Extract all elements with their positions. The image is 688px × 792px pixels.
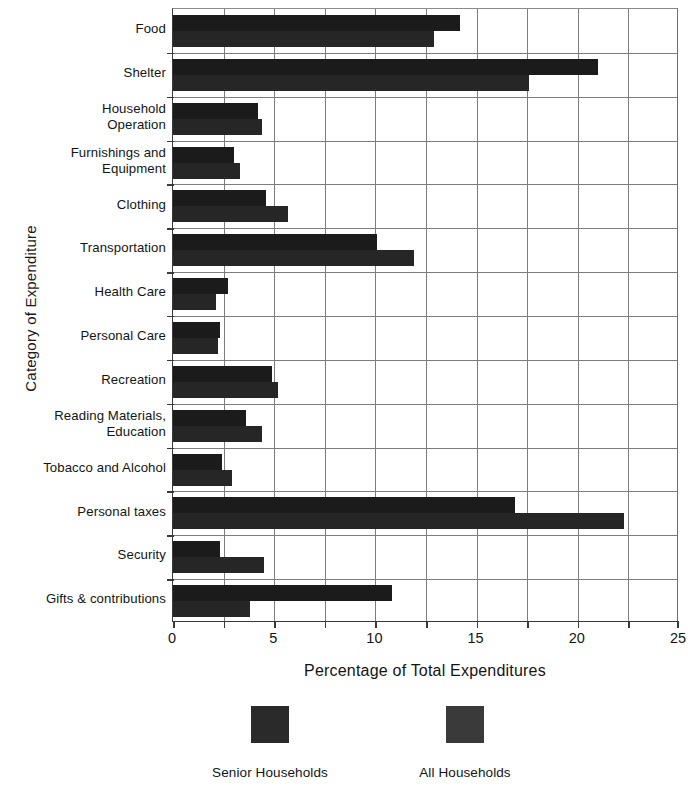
category-label-line: Personal taxes [18, 504, 166, 520]
category-label: Food [18, 21, 166, 37]
bar [173, 454, 222, 470]
category-label-line: Household [18, 101, 166, 117]
bar [173, 147, 234, 163]
x-axis-tick [375, 621, 377, 628]
bar [173, 234, 377, 250]
horizontal-gridline [173, 184, 677, 185]
x-axis-tick [677, 621, 679, 628]
y-axis-tick [167, 316, 174, 317]
y-axis-tick [167, 97, 174, 98]
horizontal-gridline [173, 316, 677, 317]
bar [173, 119, 262, 135]
category-label-line: Recreation [18, 372, 166, 388]
legend-item: Senior Households [175, 706, 365, 780]
category-label: Tobacco and Alcohol [18, 460, 166, 476]
horizontal-gridline [173, 579, 677, 580]
y-axis-tick [167, 535, 174, 536]
x-axis-tick-labels: 0510152025 [172, 630, 678, 652]
category-label-line: Furnishings and [18, 145, 166, 161]
bar [173, 190, 266, 206]
y-axis-tick [167, 272, 174, 273]
x-axis-tick [578, 621, 580, 628]
y-axis-tick [167, 360, 174, 361]
category-label-line: Security [18, 547, 166, 563]
category-label-line: Personal Care [18, 328, 166, 344]
bar [173, 59, 598, 75]
category-label: Transportation [18, 240, 166, 256]
legend-label: Senior Households [175, 765, 365, 780]
category-label-line: Tobacco and Alcohol [18, 460, 166, 476]
y-axis-tick [167, 53, 174, 54]
bar [173, 585, 392, 601]
x-axis-tick [628, 621, 630, 628]
x-axis-tick-label: 10 [352, 630, 396, 646]
horizontal-gridline [173, 360, 677, 361]
category-label-line: Education [18, 424, 166, 440]
bar [173, 410, 246, 426]
vertical-gridline [628, 9, 629, 621]
category-label: Clothing [18, 197, 166, 213]
x-axis-tick [274, 621, 276, 628]
horizontal-gridline [173, 491, 677, 492]
y-axis-tick [167, 448, 174, 449]
category-label-line: Operation [18, 117, 166, 133]
category-label: Furnishings andEquipment [18, 145, 166, 176]
category-label-line: Equipment [18, 161, 166, 177]
category-label: Reading Materials,Education [18, 408, 166, 439]
category-label-line: Shelter [18, 65, 166, 81]
x-axis-tick-label: 0 [150, 630, 194, 646]
horizontal-gridline [173, 272, 677, 273]
bar [173, 601, 250, 617]
legend-label: All Households [370, 765, 560, 780]
category-label: HouseholdOperation [18, 101, 166, 132]
x-axis-tick-label: 15 [454, 630, 498, 646]
bar [173, 382, 278, 398]
bar [173, 338, 218, 354]
x-axis-tick [325, 621, 327, 628]
x-axis-tick [173, 621, 175, 628]
y-axis-tick [167, 184, 174, 185]
category-label-column: FoodShelterHouseholdOperationFurnishings… [18, 8, 166, 622]
category-label-line: Transportation [18, 240, 166, 256]
x-axis-tick [224, 621, 226, 628]
chart-legend: Senior HouseholdsAll Households [0, 706, 688, 786]
category-label: Health Care [18, 284, 166, 300]
bar [173, 250, 414, 266]
bar [173, 278, 228, 294]
x-axis-title: Percentage of Total Expenditures [172, 662, 678, 680]
category-label-line: Gifts & contributions [18, 591, 166, 607]
category-label: Security [18, 547, 166, 563]
bar [173, 497, 515, 513]
horizontal-gridline [173, 448, 677, 449]
category-label-line: Food [18, 21, 166, 37]
legend-swatch [251, 706, 289, 743]
plot-area [172, 8, 678, 622]
y-axis-tick [167, 404, 174, 405]
category-label-line: Health Care [18, 284, 166, 300]
y-axis-tick [167, 141, 174, 142]
bar [173, 513, 624, 529]
y-axis-tick [167, 579, 174, 580]
category-label: Personal taxes [18, 504, 166, 520]
bar [173, 163, 240, 179]
category-label: Gifts & contributions [18, 591, 166, 607]
horizontal-gridline [173, 97, 677, 98]
x-axis-tick [426, 621, 428, 628]
horizontal-gridline [173, 53, 677, 54]
bar [173, 206, 288, 222]
horizontal-gridline [173, 535, 677, 536]
horizontal-gridline [173, 404, 677, 405]
bar [173, 366, 272, 382]
horizontal-gridline [173, 141, 677, 142]
bar [173, 470, 232, 486]
category-label: Recreation [18, 372, 166, 388]
x-axis-tick-label: 25 [656, 630, 688, 646]
bar [173, 31, 434, 47]
bar [173, 75, 529, 91]
horizontal-gridline [173, 228, 677, 229]
bar [173, 322, 220, 338]
category-label-line: Reading Materials, [18, 408, 166, 424]
bar [173, 541, 220, 557]
expenditure-bar-chart: Category of Expenditure FoodShelterHouse… [0, 0, 688, 792]
x-axis-tick-label: 5 [251, 630, 295, 646]
